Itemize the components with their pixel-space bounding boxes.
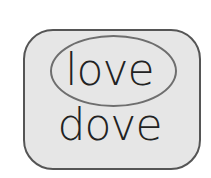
word-love: love: [4, 48, 211, 92]
word-dove: dove: [4, 103, 211, 147]
